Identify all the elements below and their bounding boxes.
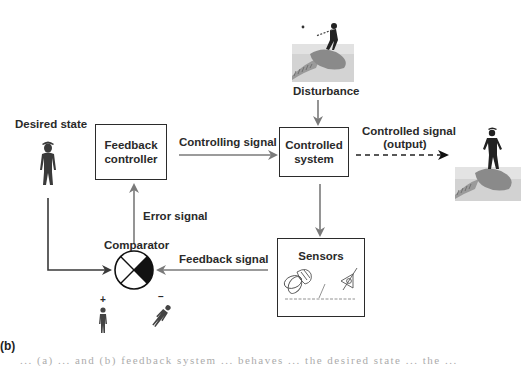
skin-receptor-icon — [285, 284, 355, 299]
feedback-controller-line2: controller — [104, 152, 157, 166]
feedback-signal-label: Feedback signal — [179, 253, 268, 266]
disturbance-label: Disturbance — [293, 85, 359, 98]
comparator-symbol — [115, 251, 153, 289]
desired-state-arrow — [48, 198, 110, 270]
controlled-system-box: Controlled system — [279, 127, 349, 177]
controlled-system-line2: system — [285, 152, 343, 166]
figure-caption: ... (a) ... and (b) feedback system ... … — [20, 354, 458, 366]
sensors-illustration — [277, 238, 365, 317]
inner-ear-icon — [282, 269, 311, 295]
panel-label: (b) — [0, 339, 15, 353]
tilted-person-icon — [151, 303, 173, 328]
controlling-signal-label: Controlling signal — [179, 136, 277, 149]
desired-state-label: Desired state — [15, 118, 87, 131]
standing-person-icon — [40, 142, 56, 186]
controlled-signal-line1: Controlled signal — [362, 125, 448, 138]
error-signal-label: Error signal — [143, 210, 208, 223]
surfer-falling-icon — [292, 14, 354, 82]
surfer-balanced-icon — [455, 125, 521, 201]
comparator-label: Comparator — [104, 239, 169, 252]
controlled-system-line1: Controlled — [285, 138, 343, 152]
eye-icon — [341, 268, 357, 290]
controlled-signal-line2: (output) — [362, 138, 448, 151]
minus-sign: – — [158, 290, 164, 303]
upright-person-icon — [99, 307, 107, 333]
controlled-signal-label: Controlled signal (output) — [362, 125, 448, 151]
feedback-controller-box: Feedback controller — [95, 124, 167, 180]
plus-sign: + — [100, 293, 106, 306]
feedback-controller-line1: Feedback — [104, 138, 157, 152]
